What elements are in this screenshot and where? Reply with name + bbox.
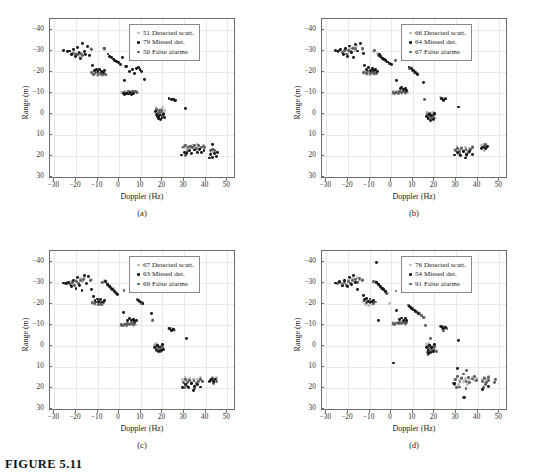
scatter-point: [392, 362, 395, 365]
scatter-point: [86, 45, 89, 48]
scatter-point: [172, 328, 175, 331]
scatter-point: [125, 65, 128, 68]
scatter-point: [338, 280, 341, 283]
panel-sublabel-a: (a): [49, 208, 235, 218]
y-axis-tick-label: −30: [304, 278, 316, 286]
gridline-horizontal: [50, 156, 234, 157]
gridline-vertical: [119, 19, 120, 177]
legend-marker-detected-icon: [134, 264, 143, 267]
legend-entry: 54 Missed det.: [406, 270, 466, 280]
gridline-vertical: [206, 19, 207, 177]
scatter-point: [466, 383, 469, 386]
scatter-point: [354, 43, 357, 46]
scatter-point: [343, 279, 346, 282]
scatter-point: [78, 284, 81, 287]
gridline-horizontal: [322, 388, 506, 389]
x-axis-tick-label: 0: [116, 413, 120, 421]
x-axis-tick-label: −30: [48, 181, 60, 189]
scatter-point: [201, 380, 204, 383]
y-axis-tick: [49, 92, 52, 93]
scatter-point: [493, 381, 496, 384]
scatter-point: [457, 339, 460, 342]
x-axis-tick-label: −30: [48, 413, 60, 421]
scatter-point: [212, 382, 215, 385]
gridline-vertical: [499, 251, 500, 409]
legend-marker-detected-icon: [406, 32, 415, 35]
legend-marker-false-alarm-icon: [406, 283, 415, 286]
scatter-point: [75, 287, 78, 290]
y-axis-tick-label: 10: [309, 130, 316, 138]
scatter-point: [471, 146, 474, 149]
x-axis-tick-label: 20: [158, 413, 165, 421]
y-axis-tick: [49, 261, 52, 262]
x-axis-tick-label: 30: [451, 413, 458, 421]
panel-sublabel-b: (b): [321, 208, 507, 218]
y-axis-tick-label: 30: [309, 172, 316, 180]
x-axis-tick-label: 40: [201, 181, 208, 189]
scatter-point: [468, 381, 471, 384]
scatter-point: [212, 380, 215, 383]
scatter-point: [215, 380, 218, 383]
scatter-point: [344, 47, 347, 50]
y-axis-tick-label: 20: [37, 383, 44, 391]
scatter-point: [121, 56, 124, 59]
legend-marker-detected-icon: [134, 32, 143, 35]
legend-entry: 67 False alarms: [406, 47, 466, 57]
legend-label: 54 Missed det.: [415, 270, 457, 278]
scatter-point: [459, 381, 462, 384]
x-axis-tick-label: 20: [430, 413, 437, 421]
gridline-horizontal: [322, 114, 506, 115]
scatter-point: [342, 53, 345, 56]
scatter-point: [375, 261, 378, 264]
scatter-point: [346, 285, 349, 288]
scatter-point: [463, 396, 466, 399]
scatter-point: [361, 279, 364, 282]
scatter-point: [122, 311, 125, 314]
gridline-horizontal: [322, 177, 506, 178]
gridline-vertical: [227, 251, 228, 409]
x-axis-tick-label: 30: [179, 181, 186, 189]
figure-caption: FIGURE 5.11: [5, 457, 82, 472]
plot-wrapper-b: Range (m) Doppler (Hz) −30−20−1001020304…: [272, 2, 544, 202]
gridline-horizontal: [322, 367, 506, 368]
legend-label: 63 Missed det.: [143, 270, 185, 278]
scatter-point: [459, 154, 462, 157]
scatter-point: [395, 309, 398, 312]
gridline-horizontal: [322, 409, 506, 410]
gridline-vertical: [391, 19, 392, 177]
gridline-horizontal: [322, 304, 506, 305]
legend-label: 79 Missed det.: [143, 38, 185, 46]
scatter-point: [348, 276, 351, 279]
scatter-point: [151, 319, 154, 322]
scatter-point: [471, 153, 474, 156]
gridline-horizontal: [322, 325, 506, 326]
scatter-point: [442, 330, 445, 333]
y-axis-tick: [49, 387, 52, 388]
scatter-point: [150, 312, 153, 315]
scatter-point: [187, 386, 190, 389]
scatter-point: [185, 152, 188, 155]
gridline-horizontal: [50, 325, 234, 326]
scatter-point: [390, 63, 393, 66]
legend-label: 50 False alarms: [143, 48, 188, 56]
legend-entry: 51 Detected scatt.: [134, 28, 194, 38]
scatter-point: [455, 386, 458, 389]
scatter-point: [444, 326, 447, 329]
scatter-point: [356, 288, 359, 291]
panel-sublabel-d: (d): [321, 440, 507, 450]
scatter-point: [196, 151, 199, 154]
x-axis-tick-label: −10: [91, 413, 103, 421]
y-axis-tick: [49, 71, 52, 72]
scatter-point: [215, 155, 218, 158]
scatter-point: [465, 153, 468, 156]
scatter-point: [190, 152, 193, 155]
gridline-vertical: [76, 19, 77, 177]
scatter-point: [103, 299, 106, 302]
scatter-point: [467, 376, 470, 379]
scatter-point: [211, 143, 214, 146]
scatter-point: [123, 289, 126, 292]
y-axis-tick: [321, 408, 324, 409]
x-axis-tick-label: −30: [320, 181, 332, 189]
y-axis-tick-label: 20: [309, 151, 316, 159]
scatter-point: [427, 352, 430, 355]
